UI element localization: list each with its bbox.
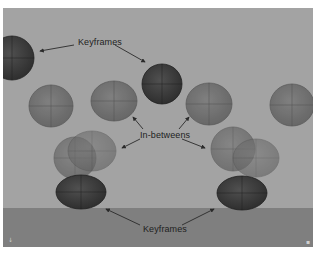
arrow-inbetweens-up-left <box>133 117 143 129</box>
balls-group <box>0 36 314 210</box>
bouncing-ball-figure: Keyframes In-betweens Keyframes ↓ ▪ <box>0 0 316 255</box>
keyframe-ball-squash-right <box>217 176 267 210</box>
arrow-inbetweens-down-right <box>182 139 205 148</box>
inbetweens-label: In-betweens <box>140 130 191 140</box>
keyframe-ball-apex <box>142 64 182 104</box>
inbetween-ball <box>270 84 314 126</box>
keyframe-ball-squash-left <box>56 175 106 209</box>
inbetween-ball <box>29 85 73 127</box>
keyframe-ball-start <box>0 36 34 80</box>
inbetween-ball <box>233 139 279 177</box>
arrow-keyframes-to-squash-left <box>106 209 140 225</box>
arrow-keyframes-to-start <box>40 45 74 51</box>
keyframes-label-top: Keyframes <box>78 37 122 47</box>
page-marker-icon: ▪ <box>306 238 310 245</box>
arrow-keyframes-to-squash-right <box>182 209 214 225</box>
arrow-inbetweens-down-left <box>122 139 140 148</box>
keyframes-label-bottom: Keyframes <box>143 224 187 234</box>
arrow-keyframes-to-apex <box>115 45 145 62</box>
arrow-inbetweens-up-right <box>179 117 189 129</box>
inbetween-ball <box>91 81 137 121</box>
scene-overlay: Keyframes In-betweens Keyframes <box>0 0 316 255</box>
inbetween-ball <box>68 131 116 171</box>
inbetween-ball <box>186 83 232 125</box>
axis-indicator-icon: ↓ <box>8 236 13 243</box>
